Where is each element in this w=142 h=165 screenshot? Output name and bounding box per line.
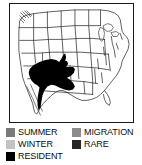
legend-item-summer[interactable]: SUMMER xyxy=(6,126,57,138)
legend-label-winter: WINTER xyxy=(18,140,53,149)
legend-label-resident: RESIDENT xyxy=(18,152,63,161)
legend-label-migration: MIGRATION xyxy=(84,128,133,137)
winter-swatch xyxy=(6,140,15,149)
map-panel xyxy=(9,3,134,123)
legend-row: RESIDENT xyxy=(5,150,142,162)
legend-row: SUMMER MIGRATION xyxy=(5,126,142,138)
legend-label-summer: SUMMER xyxy=(18,128,57,137)
summer-swatch xyxy=(6,128,15,137)
migration-swatch xyxy=(72,128,81,137)
resident-swatch xyxy=(6,152,15,161)
map-legend: SUMMER MIGRATION WINTER RARE RESIDENT xyxy=(5,126,142,164)
legend-item-winter[interactable]: WINTER xyxy=(6,138,53,150)
us-range-map xyxy=(10,4,133,122)
legend-item-migration[interactable]: MIGRATION xyxy=(72,126,133,138)
legend-item-rare[interactable]: RARE xyxy=(72,138,109,150)
rare-swatch xyxy=(72,140,81,149)
range-map-figure: SUMMER MIGRATION WINTER RARE RESIDENT xyxy=(0,0,142,165)
florida xyxy=(103,91,110,106)
map-outlines xyxy=(19,10,129,115)
legend-row: WINTER RARE xyxy=(5,138,142,150)
legend-item-resident[interactable]: RESIDENT xyxy=(6,150,63,162)
legend-label-rare: RARE xyxy=(84,140,109,149)
